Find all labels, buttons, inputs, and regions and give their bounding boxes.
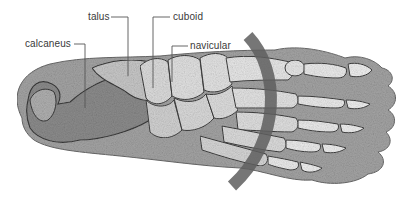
label-talus: talus <box>88 11 110 23</box>
label-calcaneus: calcaneus <box>25 38 71 50</box>
label-navicular: navicular <box>190 40 231 52</box>
foot-illustration <box>0 0 418 199</box>
label-cuboid: cuboid <box>173 11 203 23</box>
foot-bones-diagram: calcaneus talus cuboid navicular <box>0 0 418 199</box>
